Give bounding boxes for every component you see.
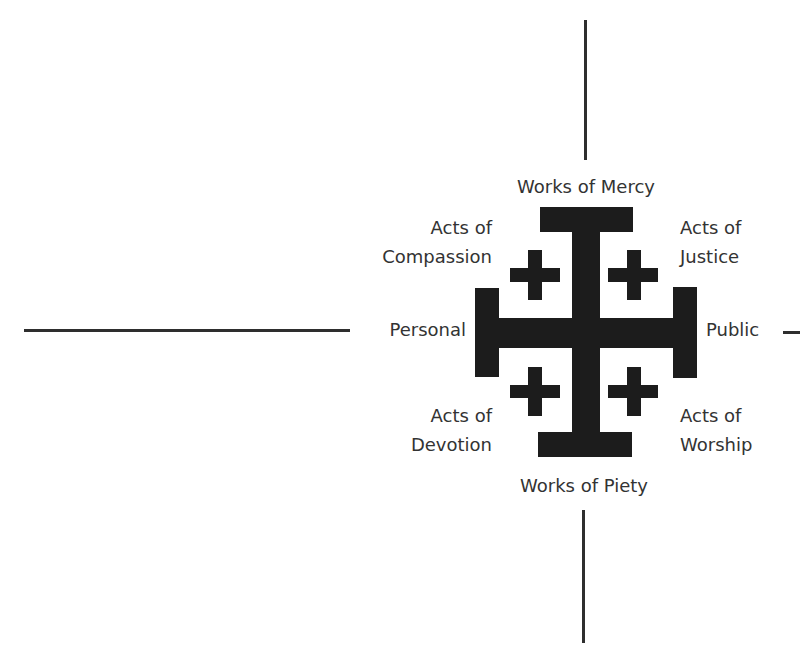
label-acts-of-worship-line1: Acts of — [680, 402, 790, 430]
axis-line-top — [584, 20, 587, 160]
label-public: Public — [706, 316, 786, 344]
label-acts-of-justice-line2: Justice — [680, 243, 790, 271]
cross-left-bar — [475, 288, 499, 377]
label-acts-of-devotion-line1: Acts of — [300, 402, 492, 430]
label-acts-of-compassion-line2: Compassion — [300, 243, 492, 271]
label-personal: Personal — [300, 316, 466, 344]
label-acts-of-compassion-line1: Acts of — [300, 214, 492, 242]
label-acts-of-justice-line1: Acts of — [680, 214, 790, 242]
label-works-of-piety: Works of Piety — [484, 472, 684, 500]
means-of-grace-diagram: Works of Mercy Works of Piety Personal P… — [0, 0, 800, 664]
cross-right-bar — [673, 287, 697, 378]
label-acts-of-worship-line2: Worship — [680, 431, 790, 459]
label-acts-of-devotion-line2: Devotion — [300, 431, 492, 459]
axis-line-bottom — [582, 510, 585, 643]
label-works-of-mercy: Works of Mercy — [486, 173, 686, 201]
cross-horizontal-stem — [475, 318, 697, 348]
